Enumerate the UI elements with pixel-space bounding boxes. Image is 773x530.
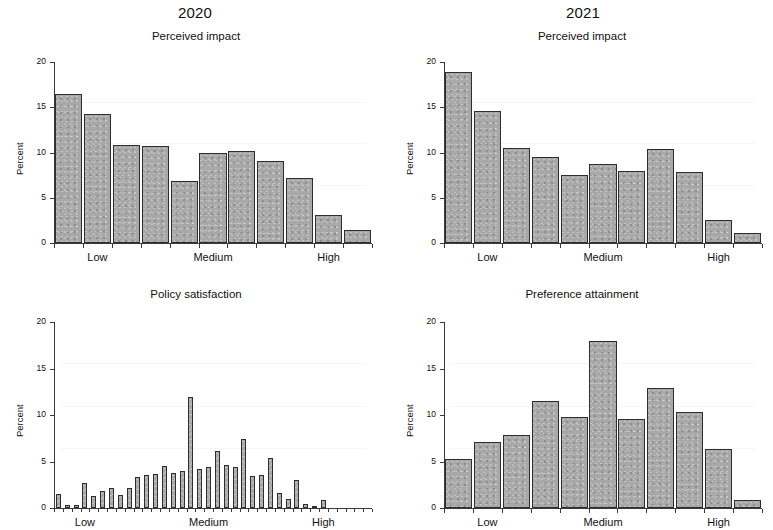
y-tick-perceived-impact-2021-5: [440, 198, 444, 199]
x-tick-perceived-impact-2020-11: [372, 244, 373, 248]
x-tick-perceived-impact-2021-1: [473, 244, 474, 248]
bar-perceived-impact-2020-5: [171, 181, 198, 243]
column-title-2020: 2020: [90, 4, 300, 21]
x-tick-policy-satisfaction-2020-28: [301, 509, 302, 512]
x-tick-policy-satisfaction-2020-14: [178, 509, 179, 512]
bar-policy-satisfaction-2020-5: [91, 496, 96, 508]
x-tick-label-perceived-impact-2021-low: Low: [447, 251, 527, 263]
x-tick-policy-satisfaction-2020-29: [310, 509, 311, 512]
x-tick-policy-satisfaction-2020-13: [169, 509, 170, 512]
x-tick-label-preference-attainment-2021-low: Low: [447, 516, 527, 528]
bar-policy-satisfaction-2020-21: [233, 467, 238, 508]
chart-panel-perceived-impact-2021: Perceived impactPercent05101520LowMedium…: [394, 30, 770, 280]
x-tick-label-policy-satisfaction-2020-high: High: [283, 516, 363, 528]
bar-policy-satisfaction-2020-20: [224, 465, 229, 508]
y-tick-label-perceived-impact-2021-0: 0: [412, 237, 436, 247]
bar-policy-satisfaction-2020-15: [180, 471, 185, 508]
y-tick-label-perceived-impact-2021-20: 20: [412, 56, 436, 66]
x-tick-preference-attainment-2021-2: [502, 509, 503, 513]
y-tick-policy-satisfaction-2020-10: [50, 415, 54, 416]
bar-perceived-impact-2021-3: [503, 148, 530, 243]
x-tick-perceived-impact-2020-5: [199, 244, 200, 248]
bar-policy-satisfaction-2020-7: [109, 488, 114, 508]
x-tick-perceived-impact-2021-2: [502, 244, 503, 248]
y-tick-label-policy-satisfaction-2020-15: 15: [22, 363, 46, 373]
bar-preference-attainment-2021-8: [647, 388, 674, 508]
background-artifact: [450, 102, 756, 103]
y-tick-policy-satisfaction-2020-20: [50, 322, 54, 323]
y-tick-preference-attainment-2021-5: [440, 462, 444, 463]
bar-perceived-impact-2020-9: [286, 178, 313, 243]
x-tick-policy-satisfaction-2020-11: [151, 509, 152, 512]
x-tick-label-policy-satisfaction-2020-medium: Medium: [169, 516, 249, 528]
x-tick-perceived-impact-2020-1: [83, 244, 84, 248]
x-tick-policy-satisfaction-2020-15: [187, 509, 188, 512]
bar-preference-attainment-2021-6: [589, 341, 616, 508]
background-artifact: [60, 102, 366, 103]
bar-preference-attainment-2021-10: [705, 449, 732, 508]
x-tick-perceived-impact-2021-3: [531, 244, 532, 248]
x-tick-policy-satisfaction-2020-6: [107, 509, 108, 512]
bar-policy-satisfaction-2020-18: [206, 467, 211, 508]
y-tick-label-preference-attainment-2021-5: 5: [412, 456, 436, 466]
bar-preference-attainment-2021-1: [445, 459, 472, 508]
x-tick-policy-satisfaction-2020-23: [257, 509, 258, 512]
bar-perceived-impact-2020-10: [315, 215, 342, 243]
background-artifact: [60, 406, 366, 407]
bar-preference-attainment-2021-9: [676, 412, 703, 508]
bar-preference-attainment-2021-7: [618, 419, 645, 508]
y-tick-label-preference-attainment-2021-15: 15: [412, 363, 436, 373]
x-tick-policy-satisfaction-2020-20: [231, 509, 232, 512]
x-tick-perceived-impact-2020-3: [141, 244, 142, 248]
x-tick-policy-satisfaction-2020-18: [213, 509, 214, 512]
y-tick-label-perceived-impact-2021-15: 15: [412, 101, 436, 111]
x-tick-perceived-impact-2020-9: [314, 244, 315, 248]
x-tick-label-perceived-impact-2021-medium: Medium: [563, 251, 643, 263]
y-tick-preference-attainment-2021-10: [440, 415, 444, 416]
y-tick-perceived-impact-2021-10: [440, 153, 444, 154]
bar-perceived-impact-2020-2: [84, 114, 111, 243]
x-tick-policy-satisfaction-2020-5: [98, 509, 99, 512]
bar-policy-satisfaction-2020-3: [74, 505, 79, 508]
y-tick-perceived-impact-2020-15: [50, 107, 54, 108]
bar-perceived-impact-2021-9: [676, 172, 703, 244]
x-tick-label-perceived-impact-2020-high: High: [289, 251, 369, 263]
x-tick-policy-satisfaction-2020-35: [363, 509, 364, 512]
x-tick-label-perceived-impact-2020-medium: Medium: [173, 251, 253, 263]
bar-perceived-impact-2021-8: [647, 149, 674, 243]
chart-panel-perceived-impact-2020: Perceived impactPercent05101520LowMedium…: [6, 30, 386, 280]
x-tick-preference-attainment-2021-10: [733, 509, 734, 513]
y-tick-label-perceived-impact-2020-5: 5: [22, 192, 46, 202]
x-tick-perceived-impact-2021-0: [444, 244, 445, 248]
x-tick-perceived-impact-2020-7: [256, 244, 257, 248]
bar-policy-satisfaction-2020-22: [241, 439, 246, 508]
y-tick-policy-satisfaction-2020-15: [50, 369, 54, 370]
x-tick-policy-satisfaction-2020-30: [319, 509, 320, 512]
bar-policy-satisfaction-2020-17: [197, 469, 202, 508]
y-tick-label-preference-attainment-2021-10: 10: [412, 409, 436, 419]
y-tick-perceived-impact-2021-20: [440, 62, 444, 63]
x-tick-policy-satisfaction-2020-27: [293, 509, 294, 512]
y-tick-perceived-impact-2020-5: [50, 198, 54, 199]
bar-perceived-impact-2021-7: [618, 171, 645, 243]
bar-policy-satisfaction-2020-6: [100, 491, 105, 508]
bar-policy-satisfaction-2020-2: [65, 505, 70, 508]
y-tick-perceived-impact-2020-20: [50, 62, 54, 63]
bar-policy-satisfaction-2020-26: [277, 493, 282, 508]
x-tick-perceived-impact-2021-11: [762, 244, 763, 248]
x-tick-policy-satisfaction-2020-8: [125, 509, 126, 512]
x-tick-preference-attainment-2021-8: [675, 509, 676, 513]
x-tick-policy-satisfaction-2020-26: [284, 509, 285, 512]
x-tick-policy-satisfaction-2020-19: [222, 509, 223, 512]
bar-preference-attainment-2021-4: [532, 401, 559, 508]
x-tick-perceived-impact-2020-2: [112, 244, 113, 248]
chart-title-perceived-impact-2020: Perceived impact: [6, 30, 386, 42]
x-tick-perceived-impact-2021-10: [733, 244, 734, 248]
x-tick-label-policy-satisfaction-2020-low: Low: [45, 516, 125, 528]
bar-perceived-impact-2021-5: [561, 175, 588, 243]
x-tick-perceived-impact-2021-7: [646, 244, 647, 248]
x-tick-policy-satisfaction-2020-25: [275, 509, 276, 512]
x-tick-label-perceived-impact-2021-high: High: [679, 251, 759, 263]
bar-policy-satisfaction-2020-25: [268, 458, 273, 508]
figure-panel-grid: 20202021Perceived impactPercent05101520L…: [0, 0, 773, 530]
